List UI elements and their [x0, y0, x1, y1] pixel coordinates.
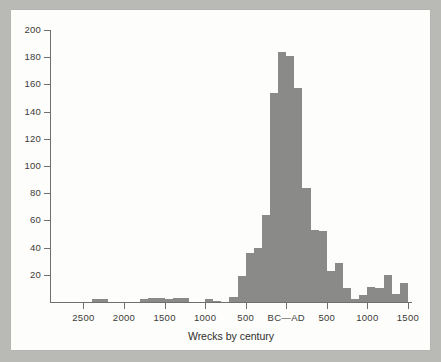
y-axis-tick-mark — [44, 139, 50, 140]
histogram-bar — [392, 294, 400, 302]
x-axis-tick-mark — [83, 303, 84, 309]
histogram-bar — [238, 276, 246, 302]
histogram-bar — [294, 88, 302, 302]
y-axis-tick-mark — [44, 248, 50, 249]
y-axis-tick-label: 20 — [11, 269, 41, 280]
histogram-bar — [351, 299, 359, 302]
x-axis-tick-mark — [246, 303, 247, 309]
histogram-bar — [140, 299, 148, 302]
histogram-bar — [213, 301, 221, 302]
y-axis-tick-label: 140 — [11, 106, 41, 117]
x-axis-title: Wrecks by century — [50, 330, 412, 342]
y-axis-tick-mark — [44, 193, 50, 194]
y-axis-tick-mark — [44, 166, 50, 167]
histogram-bar — [319, 231, 327, 302]
y-axis-tick-label: 160 — [11, 78, 41, 89]
histogram-bar — [335, 263, 343, 302]
histogram-bar — [100, 299, 108, 302]
x-axis-tick-mark — [408, 303, 409, 309]
histogram-bar — [278, 52, 286, 302]
y-axis-tick-mark — [44, 112, 50, 113]
y-axis-tick-label: 40 — [11, 242, 41, 253]
histogram-bar — [246, 253, 254, 302]
x-axis-tick-label: 1500 — [378, 312, 438, 323]
y-axis-tick-mark — [44, 57, 50, 58]
x-axis-tick-mark — [165, 303, 166, 309]
histogram-bar — [359, 295, 367, 302]
histogram-plot: 20406080100120140160180200 2500200015001… — [11, 10, 430, 350]
y-axis-tick-label: 200 — [11, 24, 41, 35]
histogram-bar — [327, 271, 335, 302]
y-axis-tick-mark — [44, 275, 50, 276]
histogram-bar — [156, 298, 164, 302]
y-axis-tick-mark — [44, 220, 50, 221]
x-axis-tick-mark — [205, 303, 206, 309]
histogram-bar — [343, 288, 351, 302]
x-axis-line — [50, 302, 412, 303]
histogram-bar — [92, 299, 100, 302]
y-axis-tick-label: 180 — [11, 51, 41, 62]
histogram-bar — [173, 298, 181, 302]
y-axis-tick-label: 100 — [11, 160, 41, 171]
y-axis-tick-label: 80 — [11, 187, 41, 198]
figure-card: 20406080100120140160180200 2500200015001… — [11, 10, 430, 350]
x-axis-tick-mark — [367, 303, 368, 309]
x-axis-tick-mark — [327, 303, 328, 309]
histogram-bar — [384, 275, 392, 302]
histogram-bars — [51, 30, 412, 302]
histogram-bar — [375, 288, 383, 302]
histogram-bar — [286, 56, 294, 302]
x-axis-tick-mark — [286, 303, 287, 309]
histogram-bar — [311, 230, 319, 302]
y-axis-tick-mark — [44, 30, 50, 31]
histogram-bar — [254, 248, 262, 302]
histogram-bar — [400, 283, 408, 302]
histogram-bar — [262, 215, 270, 302]
histogram-bar — [270, 93, 278, 302]
histogram-bar — [181, 298, 189, 302]
histogram-bar — [302, 188, 310, 302]
histogram-bar — [367, 287, 375, 302]
x-axis-tick-mark — [124, 303, 125, 309]
y-axis-tick-mark — [44, 84, 50, 85]
histogram-bar — [148, 298, 156, 302]
histogram-bar — [165, 299, 173, 302]
y-axis-tick-label: 60 — [11, 214, 41, 225]
y-axis-tick-label: 120 — [11, 133, 41, 144]
histogram-bar — [205, 299, 213, 302]
histogram-bar — [229, 297, 237, 302]
